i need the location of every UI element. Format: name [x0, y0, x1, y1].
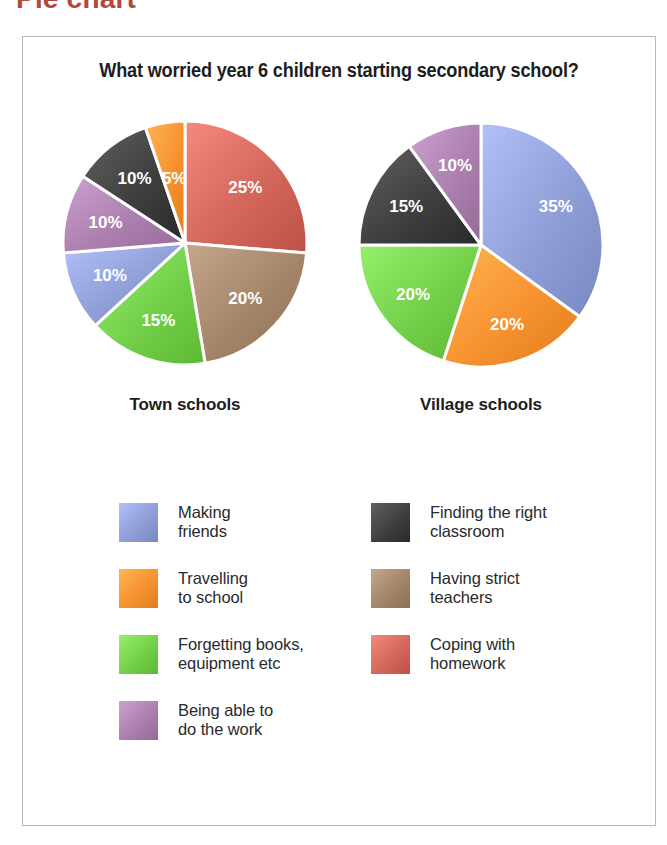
legend-item-label-line1: Travelling [178, 569, 248, 587]
legend-swatch-finding-classroom [371, 503, 410, 542]
legend-item-label: Having strictteachers [430, 569, 519, 607]
legend-item[interactable]: Having strictteachers [371, 555, 631, 621]
legend-item-label-line1: Having strict [430, 569, 519, 587]
pie-slice-label: 20% [396, 285, 430, 304]
legend-item-label: Forgetting books,equipment etc [178, 635, 304, 673]
legend-swatch-having-strict [371, 569, 410, 608]
legend-item-label-line2: to school [178, 588, 248, 607]
pie-slice-label: 5% [162, 169, 187, 188]
legend-item[interactable]: Finding the rightclassroom [371, 489, 631, 555]
legend-swatch-forgetting [119, 635, 158, 674]
page-heading: Pie chart [16, 0, 136, 15]
legend-column-right: Finding the rightclassroomHaving strictt… [371, 489, 631, 687]
legend-item-label-line2: friends [178, 522, 231, 541]
legend-item-label-line1: Making [178, 503, 231, 521]
legend-item-label-line2: homework [430, 654, 515, 673]
pie-chart-village-schools: 35%20%20%15%10% [341, 99, 621, 389]
pie-caption-town: Town schools [45, 395, 325, 415]
legend-item[interactable]: Being able todo the work [119, 687, 379, 753]
legend-item-label: Travellingto school [178, 569, 248, 607]
legend-item-label-line1: Being able to [178, 701, 273, 719]
pie-svg-town: 25%20%15%10%10%10%5% [45, 99, 325, 389]
legend-item-label-line1: Forgetting books, [178, 635, 304, 653]
legend-item-label-line1: Coping with [430, 635, 515, 653]
legend-swatch-travelling [119, 569, 158, 608]
legend-item-label-line2: equipment etc [178, 654, 304, 673]
pie-slice-label: 15% [389, 197, 423, 216]
legend-item-label-line2: do the work [178, 720, 273, 739]
pie-slice-label: 10% [93, 266, 127, 285]
pie-slice-label: 10% [438, 156, 472, 175]
legend-item-label-line1: Finding the right [430, 503, 547, 521]
pie-slice-label: 10% [88, 213, 122, 232]
pie-slice-label: 10% [118, 169, 152, 188]
legend-column-left: MakingfriendsTravellingto schoolForgetti… [119, 489, 379, 753]
pies-row: 25%20%15%10%10%10%5% 35%20%20%15%10% [23, 99, 655, 389]
legend-swatch-coping-homework [371, 635, 410, 674]
legend-item-label-line2: teachers [430, 588, 519, 607]
legend-item-label: Being able todo the work [178, 701, 273, 739]
chart-legend: MakingfriendsTravellingto schoolForgetti… [23, 489, 655, 799]
pie-chart-town-schools: 25%20%15%10%10%10%5% [45, 99, 325, 389]
pie-slice-label: 25% [228, 178, 262, 197]
chart-title: What worried year 6 children starting se… [45, 59, 633, 82]
legend-item-label-line2: classroom [430, 522, 547, 541]
legend-item[interactable]: Travellingto school [119, 555, 379, 621]
page-root: Pie chart What worried year 6 children s… [0, 0, 667, 845]
pie-slice-label: 15% [141, 311, 175, 330]
chart-frame: What worried year 6 children starting se… [22, 36, 656, 826]
legend-swatch-making-friends [119, 503, 158, 542]
legend-item[interactable]: Forgetting books,equipment etc [119, 621, 379, 687]
legend-item-label: Finding the rightclassroom [430, 503, 547, 541]
pie-slice-label: 35% [539, 197, 573, 216]
pie-svg-village: 35%20%20%15%10% [341, 99, 621, 389]
legend-item-label: Makingfriends [178, 503, 231, 541]
pie-slice-label: 20% [490, 315, 524, 334]
legend-item[interactable]: Coping withhomework [371, 621, 631, 687]
legend-item-label: Coping withhomework [430, 635, 515, 673]
legend-item[interactable]: Makingfriends [119, 489, 379, 555]
pie-slice-label: 20% [228, 289, 262, 308]
legend-swatch-being-able [119, 701, 158, 740]
pie-caption-village: Village schools [341, 395, 621, 415]
